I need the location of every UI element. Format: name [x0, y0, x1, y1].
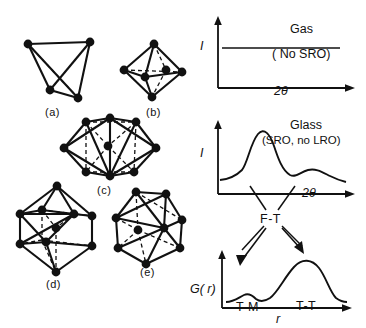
figure-root: (a): [0, 0, 366, 328]
cluster-a-tetrahedron: [18, 26, 108, 106]
plots-panel: I 2θ Gas ( No SRO) I 2θ Glass (SRO, no L…: [190, 0, 366, 328]
cluster-b-octahedron: [118, 40, 190, 106]
ft-label: F-T: [260, 212, 281, 226]
cluster-models-panel: (a): [0, 0, 190, 328]
glass-subtitle: (SRO, no LRO): [262, 134, 341, 146]
glass-title: Glass: [290, 118, 322, 132]
cluster-d-label: (d): [46, 278, 61, 290]
cluster-c-capped-prism: [58, 110, 162, 186]
pair-x-axis-label: r: [276, 312, 280, 326]
pair-peak-label-tt: T-T: [296, 299, 316, 313]
gas-x-axis-label: 2θ: [274, 84, 288, 98]
gas-title: Gas: [290, 22, 313, 36]
cluster-d-icosahedron: [12, 182, 102, 278]
gas-y-axis-label: I: [200, 39, 203, 53]
pair-y-axis-label: G( r): [190, 282, 216, 296]
glass-y-axis-label: I: [200, 146, 203, 160]
pair-peak-label-tm: T-M: [236, 300, 259, 314]
pair-distribution-curve: [226, 261, 347, 302]
cluster-e-label: (e): [140, 266, 155, 278]
gas-subtitle: ( No SRO): [272, 47, 330, 61]
cluster-e-antiprism: [112, 186, 190, 272]
